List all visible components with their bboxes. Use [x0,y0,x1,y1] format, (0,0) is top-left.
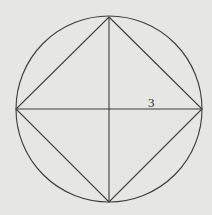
geometry-diagram: 3 [0,0,212,215]
radius-label: 3 [148,95,155,110]
